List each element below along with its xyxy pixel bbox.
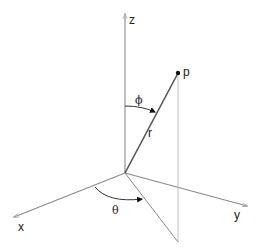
theta-label: θ: [112, 204, 119, 217]
point-label: p: [183, 65, 190, 79]
x-axis: [14, 173, 125, 217]
projection-line: [125, 173, 178, 242]
spherical-coordinates-diagram: z x y r p ϕ θ: [0, 0, 257, 250]
x-axis-label: x: [18, 220, 24, 234]
radius-label: r: [148, 126, 152, 140]
phi-label: ϕ: [135, 94, 143, 107]
point-p: [176, 71, 180, 75]
y-axis-label: y: [234, 208, 240, 222]
y-axis: [125, 173, 247, 206]
theta-arc: [95, 187, 142, 200]
z-axis-label: z: [129, 13, 135, 27]
radius-vector: [125, 75, 177, 173]
